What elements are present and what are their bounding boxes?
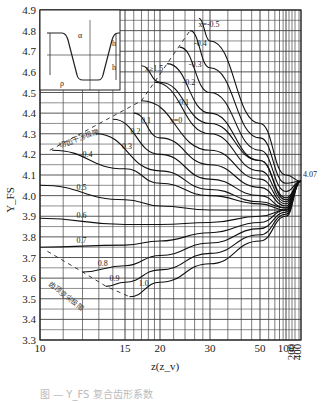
curve-label: 0.6 [77,211,87,220]
convergence-label: 4.07 [303,170,317,179]
y-tick: 4.4 [22,107,36,119]
curve-label: x=-0.5 [198,20,219,29]
yfs-chart: αρhhx≥1.5x=-0.5-0.4-0.3-0.2-0.1x=00.10.2… [0,0,326,403]
x-tick: 15 [120,342,132,354]
x-tick: 10 [35,342,47,354]
x-axis-label: z(z_v) [151,360,179,373]
figure-caption: 图 — Y_FS 复合齿形系数 [40,386,153,401]
curve-1.0 [130,181,301,297]
y-tick: 4.8 [22,25,36,37]
undercut-limit-label: 切齿干涉极限 [58,127,101,150]
y-tick: 4.7 [22,45,36,57]
curve-label: 0.2 [130,127,140,136]
x-tick: 30 [205,342,217,354]
svg-text:h: h [112,39,116,48]
curve-label: 0.1 [141,116,151,125]
y-tick: 3.4 [22,313,36,325]
y-tick: 3.5 [22,293,36,305]
y-tick: 3.9 [22,210,36,222]
y-tick: 4.0 [22,190,36,202]
x-tick: 20 [155,342,167,354]
y-tick: 3.6 [22,272,36,284]
y-axis-label: Y_FS [4,187,16,213]
curve-label: 0.8 [98,259,108,268]
curve-label: 0.7 [77,236,87,245]
curve-label: -0.4 [194,39,207,48]
curve-label: 0.9 [110,274,120,283]
tooth-profile-inset: αρhh [40,10,120,90]
curve-label: -0.2 [183,78,196,87]
curve-label: 0.5 [77,183,87,192]
curve-label: x≥1.5 [145,64,163,73]
curve-label: 1.0 [139,279,149,288]
y-tick: 4.3 [22,128,36,140]
y-tick: 4.2 [22,148,36,160]
svg-text:h: h [112,63,116,72]
y-tick: 4.9 [22,4,36,16]
y-tick: 3.7 [22,252,36,264]
curve-label: x=0 [170,116,183,125]
curve-0.2 [113,119,301,208]
y-tick: 4.5 [22,87,36,99]
curve-label: -0.3 [189,60,202,69]
curve-label: -0.1 [176,98,189,107]
svg-text:ρ: ρ [60,79,64,88]
curve--0.4 [190,31,301,184]
tip-pointing-limit-label: 齿顶变尖极限 [47,279,86,312]
x-tick: 400 [291,343,303,360]
y-tick: 3.8 [22,231,36,243]
curve-label: 0.4 [83,150,93,159]
y-tick: 4.6 [22,66,36,78]
curve-0.9 [106,181,301,286]
x-tick: 50 [255,342,267,354]
curve-label: 0.3 [122,142,132,151]
y-tick: 4.1 [22,169,36,181]
